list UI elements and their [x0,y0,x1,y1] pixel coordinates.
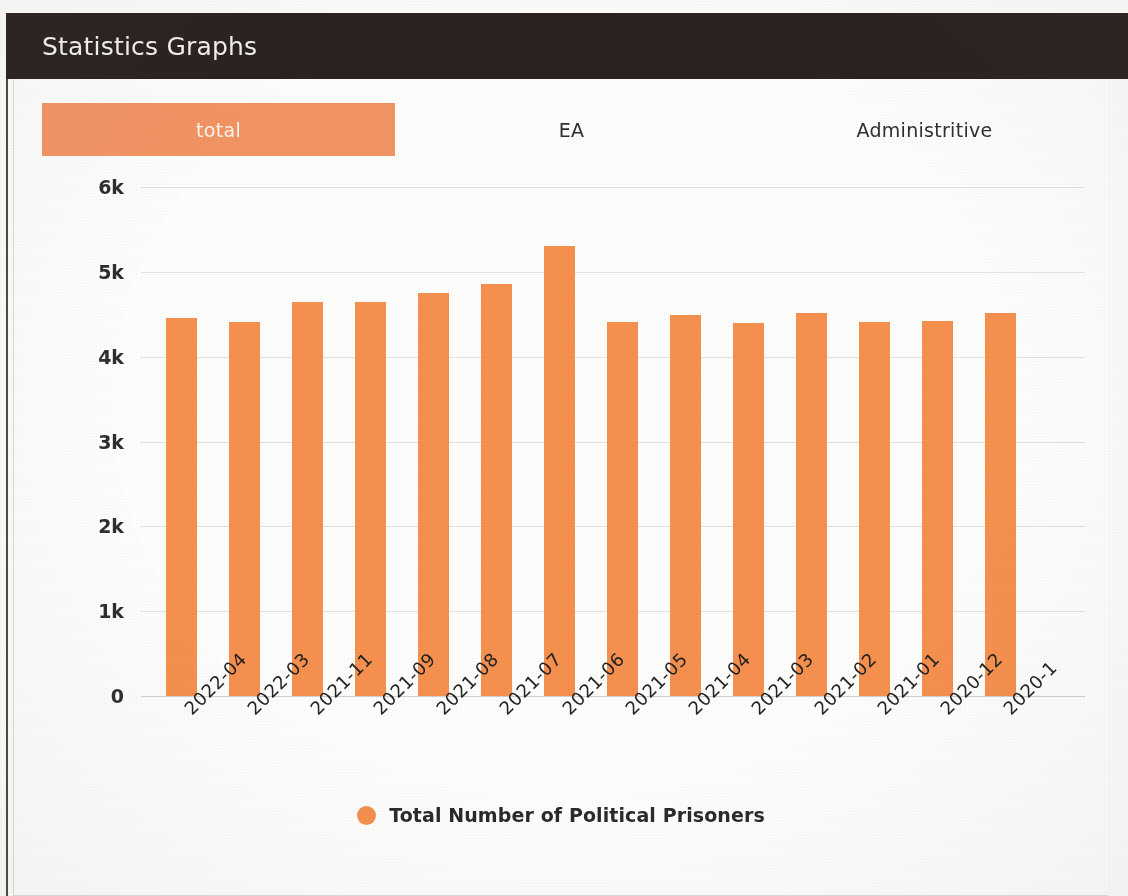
bar[interactable] [733,323,764,696]
page-title: Statistics Graphs [42,32,257,61]
bar[interactable] [292,302,323,696]
bar[interactable] [922,321,953,696]
bar[interactable] [796,313,827,696]
bar[interactable] [859,322,890,696]
y-axis-tick-label: 6k [14,176,124,198]
statistics-card: total EA Administritive 01k2k3k4k5k6k 20… [14,79,1108,891]
bar[interactable] [481,284,512,696]
scanned-page: Statistics Graphs total EA Administritiv… [0,0,1128,896]
bar[interactable] [985,313,1016,696]
bar[interactable] [166,318,197,696]
app-header: Statistics Graphs [6,13,1128,79]
gridline [141,272,1085,273]
legend-marker-icon [357,806,376,825]
y-axis-tick-label: 1k [14,600,124,622]
chart-legend: Total Number of Political Prisoners [14,804,1108,826]
bar[interactable] [355,302,386,696]
y-axis-tick-label: 0 [14,685,124,707]
gridline [141,187,1085,188]
bar[interactable] [607,322,638,696]
page-left-border [6,13,8,896]
bar[interactable] [418,293,449,696]
legend-label: Total Number of Political Prisoners [389,804,765,826]
bar[interactable] [670,315,701,696]
y-axis-tick-label: 2k [14,515,124,537]
y-axis-tick-label: 5k [14,261,124,283]
bar[interactable] [229,322,260,696]
bar-chart: 01k2k3k4k5k6k 2022-042022-032021-112021-… [14,79,1108,891]
y-axis-tick-label: 4k [14,346,124,368]
bar[interactable] [544,246,575,696]
y-axis-tick-label: 3k [14,431,124,453]
